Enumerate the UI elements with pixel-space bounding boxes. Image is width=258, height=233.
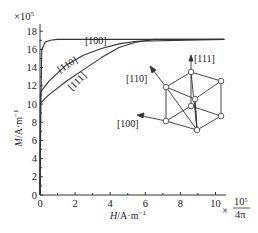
y-tick-label: 6 <box>32 135 37 146</box>
axes <box>40 24 226 195</box>
y-tick-label: 8 <box>32 117 37 128</box>
y-multiplier: ×105 <box>14 10 34 22</box>
x-tick-label: 8 <box>178 198 183 209</box>
x-multiplier: × 105 4π <box>222 196 250 220</box>
cube-inset <box>137 55 224 133</box>
svg-text:4π: 4π <box>235 209 246 220</box>
label-100: [100] <box>85 35 107 46</box>
inset-label-100: [100] <box>117 118 139 129</box>
label-110: [110] <box>55 54 79 75</box>
x-tick-label: 0 <box>37 198 42 209</box>
y-tick-label: 4 <box>32 153 38 164</box>
svg-text:105: 105 <box>234 196 248 207</box>
y-tick-label: 2 <box>32 171 37 182</box>
y-tick-label: 10 <box>27 99 38 110</box>
x-tick-label: 6 <box>143 198 148 209</box>
y-axis-label: M/A·m−1 <box>12 109 24 147</box>
label-111: [111] <box>66 70 89 93</box>
y-tick-label: 12 <box>27 80 38 91</box>
y-tick-label: 14 <box>27 62 38 73</box>
x-axis-label: H/A·m−1 <box>109 209 146 221</box>
y-tick-label: 18 <box>27 26 38 37</box>
inset-label-111: [111] <box>194 53 215 64</box>
chart-canvas: 024681012141618 0246810 ×105 M/A·m−1 H/A… <box>0 0 258 233</box>
x-tick-label: 10 <box>210 198 221 209</box>
x-tick-label: 2 <box>72 198 77 209</box>
x-tick-label: 4 <box>108 198 114 209</box>
svg-text:×: × <box>222 205 228 216</box>
inset-label-110: [110] <box>126 73 147 84</box>
y-tick-label: 16 <box>27 44 38 55</box>
y-tick-label: 0 <box>32 190 37 201</box>
